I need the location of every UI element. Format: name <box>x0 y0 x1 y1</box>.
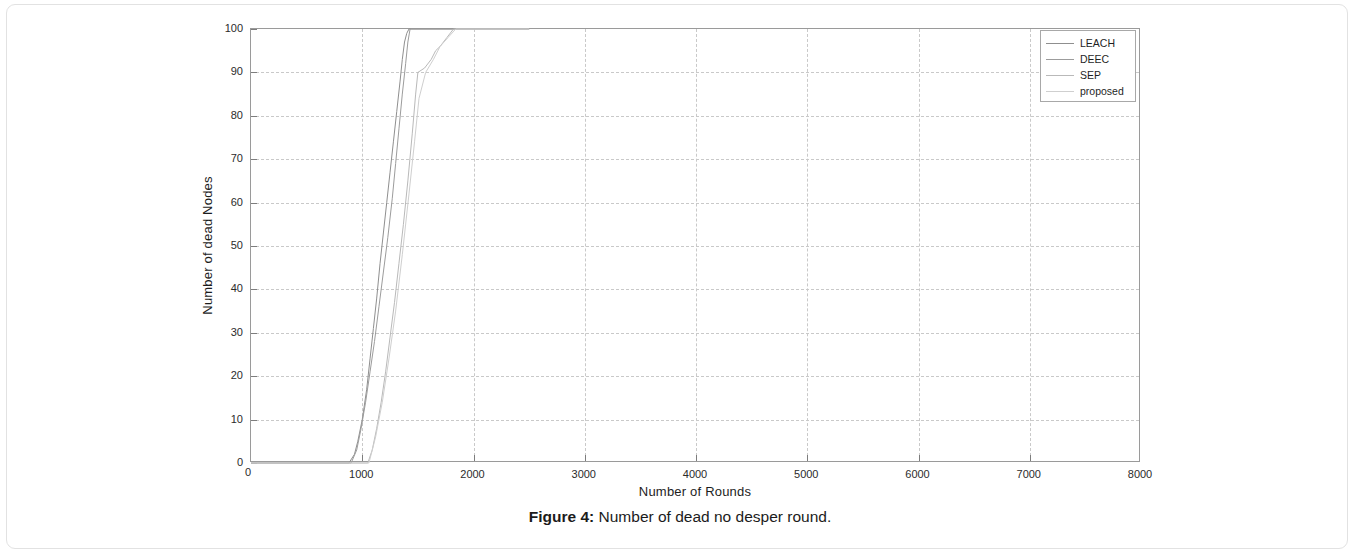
y-tick-label-0: 0 <box>237 456 243 468</box>
y-tick-label-10: 10 <box>231 413 243 425</box>
legend-swatch-deec <box>1046 59 1074 60</box>
figure-page: Number of dead Nodes 0 01020304050607080… <box>0 0 1360 553</box>
series-line-proposed <box>251 29 529 463</box>
legend-item-proposed: proposed <box>1046 83 1130 99</box>
y-tick-label-60: 60 <box>231 196 243 208</box>
legend-label-leach: LEACH <box>1080 35 1115 51</box>
x-tick-label-5000: 5000 <box>794 468 818 480</box>
x-axis-label: Number of Rounds <box>250 484 1140 499</box>
plot-area: 0102030405060708090100 10002000300040005… <box>250 28 1140 462</box>
caption-prefix: Figure 4: <box>529 508 594 525</box>
legend-swatch-leach <box>1046 43 1074 44</box>
legend-item-deec: DEEC <box>1046 51 1130 67</box>
x-tick-label-1000: 1000 <box>349 468 373 480</box>
legend-swatch-proposed <box>1046 91 1074 92</box>
legend-label-proposed: proposed <box>1080 83 1124 99</box>
caption-text: Number of dead no desper round. <box>594 508 831 525</box>
x-tick-label-3000: 3000 <box>572 468 596 480</box>
x-tick-label-4000: 4000 <box>683 468 707 480</box>
y-tick-label-30: 30 <box>231 326 243 338</box>
y-tick-label-20: 20 <box>231 369 243 381</box>
series-line-deec <box>251 29 529 463</box>
legend-item-leach: LEACH <box>1046 35 1130 51</box>
legend-label-sep: SEP <box>1080 67 1101 83</box>
y-tick-label-100: 100 <box>225 22 243 34</box>
y-tick-label-40: 40 <box>231 282 243 294</box>
x-tick-label-2000: 2000 <box>460 468 484 480</box>
x-tick-label-8000: 8000 <box>1128 468 1152 480</box>
y-tick-label-50: 50 <box>231 239 243 251</box>
chart-legend: LEACHDEECSEPproposed <box>1040 30 1136 102</box>
x-tick-label-6000: 6000 <box>905 468 929 480</box>
y-axis-label: Number of dead Nodes <box>198 28 216 462</box>
series-line-leach <box>251 29 529 463</box>
legend-item-sep: SEP <box>1046 67 1130 83</box>
figure-caption: Figure 4: Number of dead no desper round… <box>0 508 1360 526</box>
legend-label-deec: DEEC <box>1080 51 1109 67</box>
x-axis-origin-label: 0 <box>245 466 251 478</box>
y-tick-label-90: 90 <box>231 65 243 77</box>
figure-4: Number of dead Nodes 0 01020304050607080… <box>0 0 1360 553</box>
y-tick-label-80: 80 <box>231 109 243 121</box>
x-tick-label-7000: 7000 <box>1017 468 1041 480</box>
y-tick-label-70: 70 <box>231 152 243 164</box>
series-lines <box>251 29 1141 463</box>
axes-box <box>250 28 1140 462</box>
series-line-sep <box>251 29 529 463</box>
legend-swatch-sep <box>1046 75 1074 76</box>
